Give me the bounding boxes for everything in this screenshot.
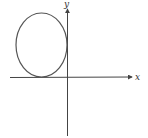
ellipse-curve bbox=[16, 13, 67, 77]
x-axis bbox=[10, 77, 132, 78]
y-axis-label: y bbox=[63, 0, 70, 9]
x-axis-label: x bbox=[135, 72, 140, 82]
diagram-canvas: x y bbox=[0, 0, 148, 138]
